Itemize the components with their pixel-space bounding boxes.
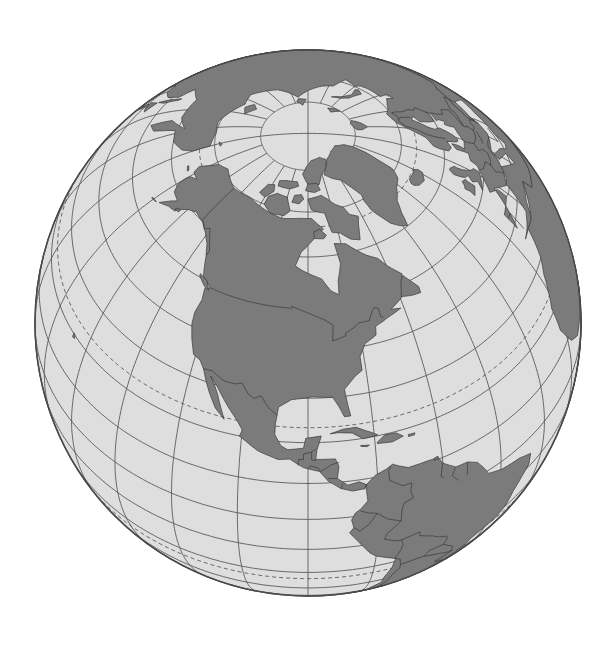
orthographic-globe-map[interactable] <box>0 0 616 646</box>
jamaica-landmass <box>361 445 370 447</box>
map-container <box>0 0 616 646</box>
st-lawrence-island-landmass <box>187 166 189 171</box>
